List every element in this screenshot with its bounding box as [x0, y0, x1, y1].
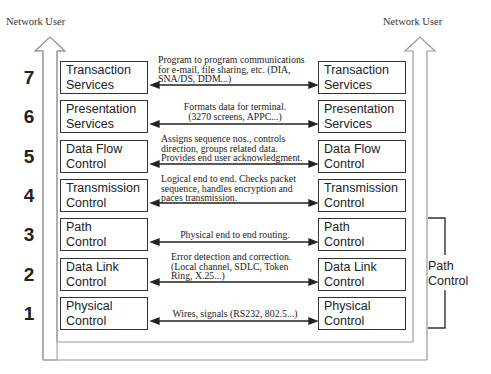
layer-number-6: 6 — [18, 106, 40, 128]
right-box-presentation-services: Presentation Services — [318, 100, 406, 133]
layer-1-description: Wires, signals (RS232, 802.5...) — [152, 309, 318, 319]
left-box-transmission-control: Transmission Control — [60, 179, 148, 212]
left-box-physical-control: Physical Control — [60, 297, 148, 330]
layer-6-description: Formats data for terminal. (3270 screens… — [152, 102, 318, 121]
layer-number-3: 3 — [18, 224, 40, 246]
layer-7-description: Program to program communications for e-… — [158, 55, 324, 84]
layer-number-7: 7 — [18, 67, 40, 89]
right-box-path-control: Path Control — [318, 218, 406, 251]
layer-2-description: Error detection and correction. (Local c… — [171, 252, 337, 281]
left-box-presentation-services: Presentation Services — [60, 100, 148, 133]
sna-layer-diagram: Network User Network User 7 Transaction … — [0, 0, 491, 374]
layer-number-4: 4 — [18, 185, 40, 207]
left-box-data-link-control: Data Link Control — [60, 258, 148, 291]
layer-3-description: Physical end to end routing. — [152, 230, 318, 240]
left-box-data-flow-control: Data Flow Control — [60, 140, 148, 173]
network-user-left-label: Network User — [6, 16, 65, 27]
layer-number-1: 1 — [18, 303, 40, 325]
right-box-physical-control: Physical Control — [318, 297, 406, 330]
path-control-bracket-label: Path Control — [428, 258, 468, 290]
network-user-right-label: Network User — [383, 16, 442, 27]
right-box-transmission-control: Transmission Control — [318, 179, 406, 212]
layer-4-description: Logical end to end. Checks packet sequen… — [161, 174, 327, 203]
layer-number-5: 5 — [18, 146, 40, 168]
left-box-path-control: Path Control — [60, 218, 148, 251]
layer-5-description: Assigns sequence nos., controls directio… — [161, 134, 327, 163]
right-box-data-flow-control: Data Flow Control — [318, 140, 406, 173]
layer-number-2: 2 — [18, 264, 40, 286]
left-box-transaction-services: Transaction Services — [60, 61, 148, 94]
right-box-transaction-services: Transaction Services — [318, 61, 406, 94]
